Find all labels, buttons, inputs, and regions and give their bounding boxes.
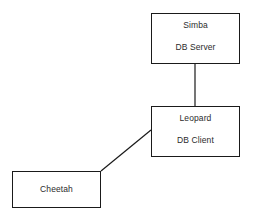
node-simba[interactable]: Simba DB Server [151, 13, 240, 64]
node-leopard-name: Leopard [180, 114, 212, 123]
network-diagram: Simba DB Server Leopard DB Client Cheeta… [0, 0, 254, 224]
node-leopard-role: DB Client [177, 136, 214, 145]
connector-cheetah-to-leopard [101, 130, 151, 171]
node-cheetah-name: Cheetah [40, 185, 73, 194]
node-simba-role: DB Server [175, 43, 215, 52]
node-leopard[interactable]: Leopard DB Client [151, 106, 240, 157]
node-simba-name: Simba [183, 21, 208, 30]
node-cheetah[interactable]: Cheetah [12, 171, 101, 208]
